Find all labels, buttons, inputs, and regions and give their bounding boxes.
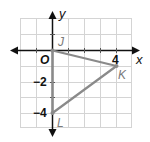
point-label-l: L (57, 116, 64, 130)
point-j (51, 49, 55, 53)
origin-label: O (40, 53, 50, 67)
x-axis-label: x (135, 52, 143, 67)
x-axis-left-arrow-icon (10, 47, 18, 55)
point-l (51, 111, 55, 115)
coordinate-plane: y x O 4 −2 −4 J K L (0, 0, 150, 142)
y-axis-up-arrow-icon (49, 11, 57, 19)
y-axis-down-arrow-icon (49, 129, 57, 137)
x-tick-label-4: 4 (112, 53, 119, 67)
point-label-j: J (57, 35, 65, 49)
y-tick-label-neg2: −2 (33, 75, 47, 89)
y-tick-label-neg4: −4 (33, 106, 47, 120)
point-label-k: K (118, 68, 127, 82)
